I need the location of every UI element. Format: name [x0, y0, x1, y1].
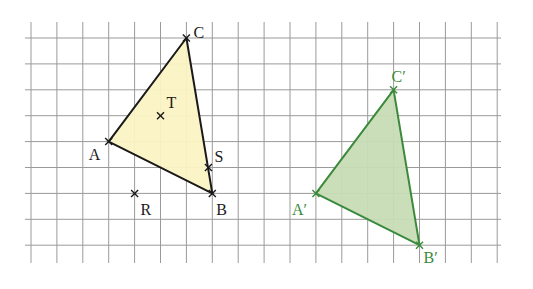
square-grid	[25, 22, 501, 263]
point-label-c-prime: C′	[392, 68, 406, 85]
point-label-s: S	[214, 148, 223, 165]
point-label-r: R	[141, 201, 152, 218]
grid-diagram: ABCTSRA′B′C′	[0, 0, 533, 289]
point-label-t: T	[167, 94, 177, 111]
point-label-a: A	[89, 146, 101, 163]
point-label-b-prime: B′	[424, 249, 438, 266]
point-label-c: C	[193, 24, 204, 41]
point-label-b: B	[216, 201, 227, 218]
geometry-figure: ABCTSRA′B′C′	[0, 0, 533, 289]
point-label-a-prime: A′	[292, 201, 307, 218]
